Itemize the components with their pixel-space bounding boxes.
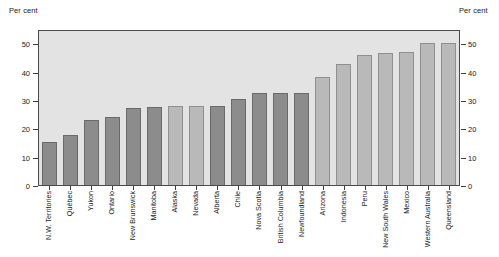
x-tick-slot (439, 186, 460, 190)
x-axis-label: Nevada (193, 191, 200, 216)
x-axis-label: Western Australia (425, 191, 432, 247)
x-label-slot: Newfoundland (291, 191, 312, 255)
bar (168, 106, 184, 185)
x-label-slot: Manitoba (143, 191, 164, 255)
x-tick (365, 186, 366, 190)
bar (420, 43, 436, 185)
x-axis-label: Queensland (446, 191, 453, 230)
y-tick-label-right: 10 (468, 154, 492, 163)
y-tick-label-left: 0 (8, 182, 30, 191)
x-axis-label: Québec (66, 191, 73, 216)
bar-slot (165, 31, 186, 185)
bar (252, 93, 268, 185)
x-axis-label: Yukon (87, 191, 94, 211)
x-tick (91, 186, 92, 190)
x-label-slot: Nova Scotia (249, 191, 270, 255)
x-tick-slot (207, 186, 228, 190)
x-label-slot: New South Wales (376, 191, 397, 255)
bar-series (39, 31, 459, 185)
bar (336, 64, 352, 185)
bar-slot (438, 31, 459, 185)
bar (42, 142, 58, 185)
bar-slot (144, 31, 165, 185)
x-tick (238, 186, 239, 190)
x-label-slot: Queensland (439, 191, 460, 255)
bar-slot (207, 31, 228, 185)
y-tick-label-left: 10 (8, 154, 30, 163)
x-axis-label: Mexico (404, 191, 411, 214)
x-tick (133, 186, 134, 190)
x-tick (70, 186, 71, 190)
x-tick-slot (228, 186, 249, 190)
bar (189, 106, 205, 185)
x-tick-slot (418, 186, 439, 190)
x-axis-label: Alaska (172, 191, 179, 213)
bar (315, 77, 331, 185)
bar (105, 117, 121, 185)
bar (84, 120, 100, 185)
bar-slot (228, 31, 249, 185)
x-tick (449, 186, 450, 190)
x-axis-label: Manitoba (150, 191, 157, 221)
y-tick-right (461, 129, 466, 130)
x-tick (302, 186, 303, 190)
bar (294, 93, 310, 185)
x-axis-label: Ontario (108, 191, 115, 215)
x-axis-label: Indonesia (340, 191, 347, 222)
x-axis-label: New South Wales (382, 191, 389, 248)
x-label-slot: Alberta (207, 191, 228, 255)
x-tick-slot (354, 186, 375, 190)
y-tick-right (461, 186, 466, 187)
x-tick-slot (143, 186, 164, 190)
x-axis-label: British Columbia (277, 191, 284, 243)
x-label-slot: Western Australia (418, 191, 439, 255)
bar (273, 93, 289, 185)
x-label-slot: British Columbia (270, 191, 291, 255)
left-axis-title: Per cent (9, 6, 38, 15)
y-tick-label-right: 30 (468, 97, 492, 106)
bar-slot (333, 31, 354, 185)
plot-area (38, 30, 460, 186)
x-tick (259, 186, 260, 190)
x-tick (154, 186, 155, 190)
x-axis-label: Nova Scotia (256, 191, 263, 230)
y-tick-right (461, 73, 466, 74)
x-axis-label: Newfoundland (298, 191, 305, 237)
x-tick-slot (80, 186, 101, 190)
x-label-slot: Peru (354, 191, 375, 255)
x-axis-label: New Brunswick (129, 191, 136, 240)
x-axis-ticks (38, 186, 460, 190)
x-tick-slot (312, 186, 333, 190)
x-axis-label: N.W. Territories (45, 191, 52, 240)
bar-slot (417, 31, 438, 185)
x-tick-slot (270, 186, 291, 190)
bar (357, 55, 373, 185)
x-tick-slot (165, 186, 186, 190)
x-tick (196, 186, 197, 190)
bar (63, 135, 79, 185)
x-label-slot: New Brunswick (122, 191, 143, 255)
x-tick (175, 186, 176, 190)
bar (399, 52, 415, 185)
x-label-slot: Mexico (397, 191, 418, 255)
x-tick-slot (101, 186, 122, 190)
bar (126, 108, 142, 185)
x-tick (386, 186, 387, 190)
x-label-slot: Arizona (312, 191, 333, 255)
x-label-slot: N.W. Territories (38, 191, 59, 255)
bar (231, 99, 247, 186)
x-tick-slot (38, 186, 59, 190)
x-tick (407, 186, 408, 190)
x-tick-slot (333, 186, 354, 190)
y-tick-label-left: 20 (8, 125, 30, 134)
y-tick-right (461, 101, 466, 102)
x-tick-slot (186, 186, 207, 190)
x-axis-label: Alberta (214, 191, 221, 214)
x-label-slot: Chile (228, 191, 249, 255)
bar-slot (375, 31, 396, 185)
x-label-slot: Nevada (186, 191, 207, 255)
y-tick-right (461, 44, 466, 45)
x-axis-label: Arizona (319, 191, 326, 215)
bar (378, 53, 394, 185)
y-tick-label-left: 30 (8, 97, 30, 106)
